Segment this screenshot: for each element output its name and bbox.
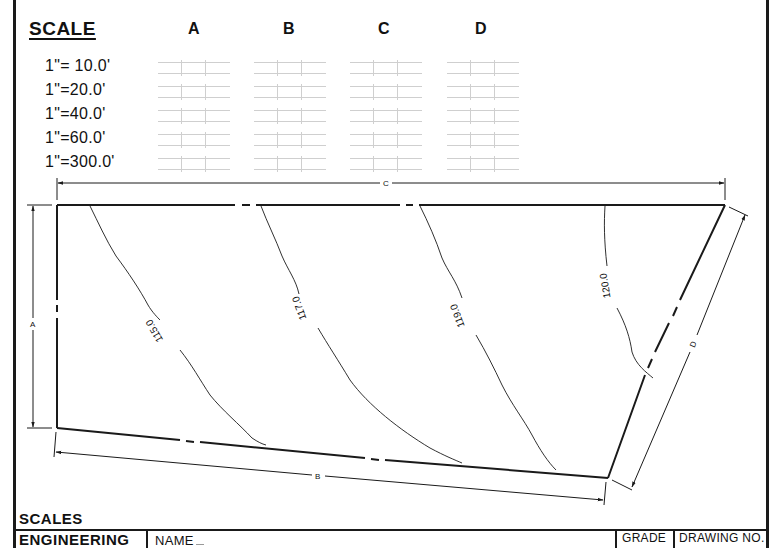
course-label: ENGINEERING — [19, 531, 130, 548]
name-label: NAME — [155, 533, 194, 548]
drawing-sheet: SCALE A B C D 1"= 10.0' 1"=20.0' 1"=40.0… — [0, 0, 775, 548]
title-block-separator — [615, 529, 617, 548]
drawing-title: SCALES — [19, 510, 83, 527]
name-field[interactable]: NAME — [155, 533, 204, 548]
drawing-number-label: DRAWING NO. — [679, 531, 765, 545]
contour-line-117 — [261, 206, 299, 294]
name-underline — [196, 544, 204, 545]
contour-label-117: 117.0 — [290, 295, 309, 322]
contour-label-120: 120.0 — [597, 272, 612, 299]
dimension-label-d: D — [688, 340, 699, 349]
contour-label-115: 115.0 — [143, 317, 165, 344]
title-block-separator — [673, 529, 675, 548]
dimension-label-a: A — [30, 320, 36, 329]
contour-line-120 — [604, 206, 607, 266]
title-block-separator — [146, 529, 148, 548]
contour-label-119: 119.0 — [448, 302, 467, 329]
dimension-label-b: B — [315, 472, 320, 481]
grade-label: GRADE — [622, 531, 666, 545]
contour-line-115 — [90, 206, 160, 320]
site-plan-drawing: C A B D 115.0 117.0 119.0 120.0 — [0, 0, 775, 548]
dimension-label-c: C — [383, 179, 389, 188]
contour-line-119 — [420, 206, 462, 298]
